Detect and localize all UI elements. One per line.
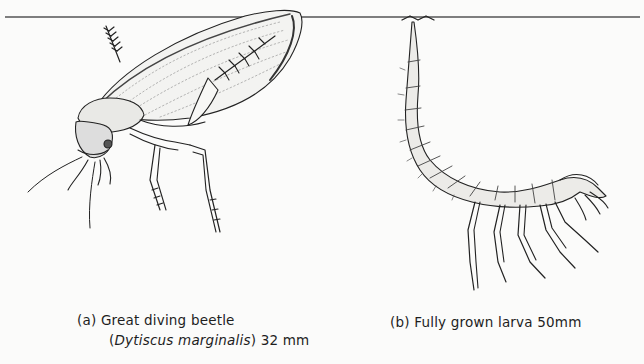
beetle-illustration xyxy=(28,10,302,232)
caption-a: (a) Great diving beetle (Dytiscus margin… xyxy=(77,310,309,350)
caption-a-close-paren: ) xyxy=(251,332,256,348)
caption-b-title: Fully grown larva xyxy=(414,314,533,330)
caption-b-size: 50mm xyxy=(537,314,581,330)
caption-a-size: 32 mm xyxy=(261,332,310,348)
caption-b: (b) Fully grown larva 50mm xyxy=(390,312,582,332)
larva-body xyxy=(406,22,606,207)
larva-illustration xyxy=(398,16,608,290)
figure: (a) Great diving beetle (Dytiscus margin… xyxy=(0,0,644,364)
caption-a-label: (a) xyxy=(77,312,96,328)
caption-a-scientific-name: Dytiscus marginalis xyxy=(114,332,250,348)
beetle-raised-leg xyxy=(104,26,122,62)
caption-b-label: (b) xyxy=(390,314,410,330)
caption-a-title: Great diving beetle xyxy=(101,312,235,328)
